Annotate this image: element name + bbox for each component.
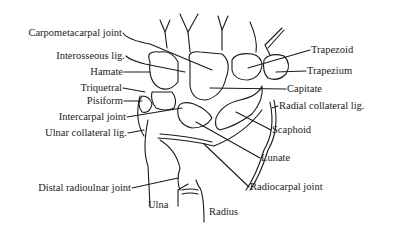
label-radial-collateral-lig: Radial collateral lig. (279, 100, 364, 112)
lunate-bone (178, 103, 212, 128)
capitate-bone (189, 52, 228, 100)
leader-triquetral (123, 88, 145, 92)
hamate-bone (149, 52, 178, 89)
label-trapezium: Trapezium (307, 65, 352, 77)
metacarpal-5 (160, 20, 170, 32)
label-carpometacarpal-joint: Carpometacarpal joint (28, 27, 122, 39)
label-distal-radioulnar-joint: Distal radioulnar joint (38, 182, 131, 194)
leader-distal-radioulnar (132, 178, 178, 188)
distal-radioulnar-joint-lines (182, 189, 198, 194)
pisiform-bone (139, 96, 152, 112)
label-interosseous-lig: Interosseous lig. (56, 50, 125, 62)
label-intercarpal-joint: Intercarpal joint (59, 111, 126, 123)
metacarpal-3 (218, 16, 228, 30)
ulna-bone (145, 120, 150, 206)
leader-radiocarpal (204, 144, 249, 187)
label-triquetral: Triquetral (80, 82, 122, 94)
label-hamate: Hamate (90, 66, 123, 78)
triquetral-bone (152, 92, 176, 110)
label-ulna: Ulna (148, 199, 168, 211)
label-pisiform: Pisiform (87, 95, 123, 107)
metacarpal-4 (180, 14, 198, 32)
label-radius: Radius (209, 206, 238, 218)
leader-trapezoid (248, 50, 310, 68)
leader-trapezium (276, 71, 306, 72)
trapezium-bone (264, 55, 289, 80)
label-lunate: Lunate (261, 152, 290, 164)
label-scaphoid: Scaphoid (272, 124, 311, 136)
label-capitate: Capitate (287, 83, 322, 95)
label-trapezoid: Trapezoid (311, 44, 353, 56)
trapezoid-bone (232, 54, 262, 80)
scaphoid-bone (216, 86, 263, 130)
label-ulnar-collateral-lig: Ulnar collateral lig. (45, 127, 127, 139)
metacarpal-2 (250, 22, 256, 52)
label-radiocarpal-joint: Radiocarpal joint (250, 181, 323, 193)
leader-intercarpal (127, 108, 182, 117)
